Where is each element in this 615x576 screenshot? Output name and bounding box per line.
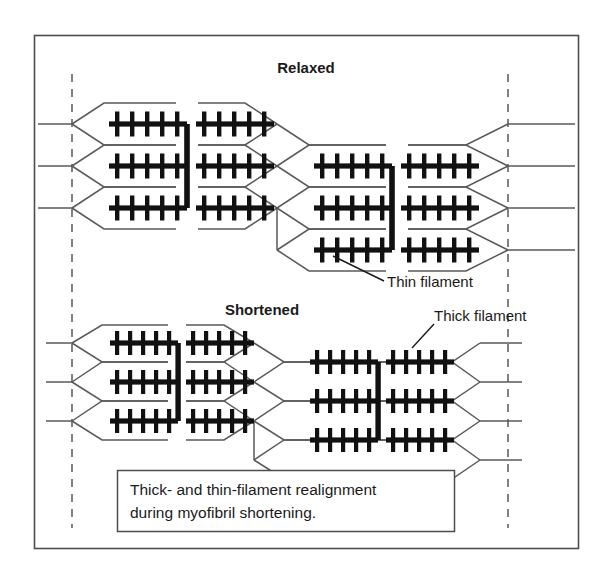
sarcomere-diagram: Relaxed — [0, 0, 615, 576]
caption-box — [118, 471, 455, 532]
thin-filament-label: Thin filament — [387, 273, 474, 290]
figure-stage: Relaxed — [0, 0, 615, 576]
caption-line-2: during myofibril shortening. — [130, 504, 316, 521]
panel-title-relaxed: Relaxed — [277, 59, 335, 76]
panel-title-shortened: Shortened — [225, 301, 299, 318]
caption-line-1: Thick- and thin-filament realignment — [130, 481, 377, 498]
thick-filament-label: Thick filament — [434, 307, 527, 324]
